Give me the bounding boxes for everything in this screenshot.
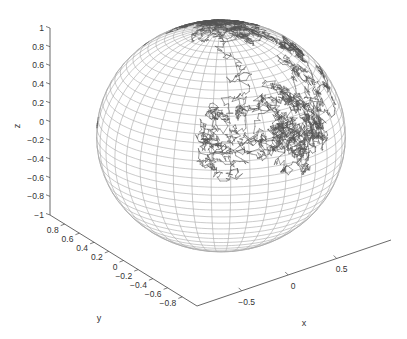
- random-walk-trajectory: [97, 20, 336, 181]
- mesh-line: [126, 28, 221, 242]
- mesh-line: [221, 28, 231, 251]
- y-tick: [105, 251, 109, 253]
- y-tick: [178, 297, 182, 299]
- z-axis-label: z: [12, 123, 22, 128]
- mesh-line: [184, 247, 257, 252]
- y-tick-label: 0.8: [47, 225, 59, 235]
- z-tick-label: 0: [39, 117, 44, 127]
- sphere-plot: 10.80.60.40.20−0.2−0.4−0.6−0.8−10.80.60.…: [0, 0, 407, 339]
- mesh-line: [104, 175, 322, 211]
- mesh-line: [100, 28, 221, 200]
- z-tick-label: 0.4: [32, 79, 44, 89]
- random-walk-path: [97, 20, 336, 181]
- y-tick: [75, 233, 79, 235]
- mesh-line: [108, 184, 319, 217]
- z-tick: [46, 101, 50, 103]
- y-axis-label: y: [97, 313, 102, 323]
- z-tick-label: −0.6: [27, 173, 44, 183]
- y-tick: [61, 224, 65, 226]
- z-tick-label: 0.2: [32, 98, 44, 108]
- mesh-line: [221, 28, 250, 251]
- z-tick: [46, 214, 50, 216]
- y-tick-label: 0.2: [91, 252, 103, 262]
- z-tick-label: −0.4: [27, 154, 44, 164]
- mesh-line: [140, 28, 221, 246]
- z-tick-label: 0.6: [32, 60, 44, 70]
- y-tick-label: 0.6: [62, 234, 74, 244]
- z-tick: [46, 195, 50, 197]
- y-tick: [134, 270, 138, 272]
- y-tick-label: −0.8: [160, 298, 177, 308]
- y-tick: [120, 261, 124, 263]
- y-tick: [90, 242, 94, 244]
- z-tick: [46, 27, 50, 29]
- z-tick: [46, 64, 50, 66]
- x-tick-label: 0.5: [336, 264, 348, 274]
- x-tick: [239, 288, 242, 291]
- x-tick: [334, 255, 337, 258]
- y-tick: [164, 288, 168, 290]
- y-tick: [149, 279, 153, 281]
- z-tick: [46, 176, 50, 178]
- z-tick: [46, 157, 50, 159]
- x-tick: [285, 272, 288, 275]
- z-tick-label: 0.8: [32, 42, 44, 52]
- z-tick: [46, 83, 50, 85]
- x-tick-label: 0: [291, 281, 296, 291]
- z-tick: [46, 45, 50, 47]
- x-axis-label: x: [302, 318, 307, 328]
- z-tick-label: −0.2: [27, 135, 44, 145]
- z-tick: [46, 120, 50, 122]
- z-tick-label: −1: [34, 210, 44, 220]
- z-tick-label: 1: [39, 23, 44, 33]
- z-tick-label: −0.8: [27, 191, 44, 201]
- z-tick: [46, 139, 50, 141]
- x-tick-label: −0.5: [238, 297, 255, 307]
- y-tick-label: 0.4: [76, 243, 88, 253]
